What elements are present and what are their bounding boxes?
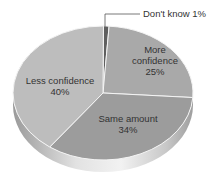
label-more-confidence: More confidence 25% (120, 44, 190, 77)
label-same-line1: Same amount (88, 113, 168, 124)
label-more-pct: 25% (120, 66, 190, 77)
label-less-line1: Less confidence (15, 75, 105, 86)
label-same-amount: Same amount 34% (88, 113, 168, 135)
label-dont-know: Don't know 1% (143, 8, 206, 19)
label-more-line1: More (120, 44, 190, 55)
label-less-confidence: Less confidence 40% (15, 75, 105, 97)
label-same-pct: 34% (88, 124, 168, 135)
label-more-line2: confidence (120, 55, 190, 66)
callout-line (105, 14, 140, 27)
label-less-pct: 40% (15, 86, 105, 97)
